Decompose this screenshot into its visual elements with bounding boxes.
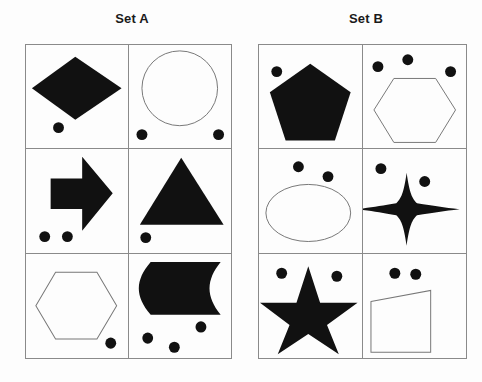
dot: [140, 232, 151, 243]
set-a-cell-middle-right: [129, 149, 232, 253]
bitten-rounded-rect-shape: [138, 262, 220, 315]
dot: [323, 171, 334, 182]
dot: [39, 231, 50, 242]
hexagon-shape: [36, 272, 117, 339]
five-pointed-star-shape: [260, 266, 358, 354]
circle-shape: [141, 51, 217, 126]
set-b-cell-top-right: [363, 45, 467, 149]
dot: [142, 332, 153, 343]
set-a-cell-bottom-right: [129, 254, 232, 358]
dot: [213, 129, 224, 140]
pentagon-shape: [270, 64, 351, 141]
set-a-title: Set A: [79, 11, 185, 26]
dot: [195, 321, 206, 332]
dot: [276, 267, 287, 278]
set-b-cell-top-left: [259, 45, 363, 149]
set-a-cell-bottom-left: [26, 254, 129, 358]
trapezoid-shape: [370, 290, 430, 352]
set-a-cell-middle-left: [26, 149, 129, 253]
ellipse-shape: [266, 185, 351, 242]
hexagon-shape: [373, 78, 455, 142]
set-b-title: Set B: [313, 11, 419, 26]
dot: [375, 164, 386, 175]
dot: [402, 54, 413, 65]
dot: [445, 66, 456, 77]
dot: [136, 129, 147, 140]
set-b-cell-bottom-right: [363, 254, 467, 358]
set-b-cell-middle-right: [363, 149, 467, 253]
set-a-grid: [25, 44, 232, 359]
dot: [410, 268, 421, 279]
dot: [271, 66, 282, 77]
set-b-grid: [258, 44, 467, 359]
dot: [62, 231, 73, 242]
diamond-shape: [32, 57, 122, 120]
dot: [331, 270, 342, 281]
dot: [53, 122, 64, 133]
dot: [372, 61, 383, 72]
dot: [293, 162, 304, 173]
set-b-cell-bottom-left: [259, 254, 363, 358]
triangle-shape: [139, 158, 223, 225]
puzzle-figure: Set A: [0, 0, 482, 382]
set-b-cell-middle-left: [259, 149, 363, 253]
dot: [419, 176, 430, 187]
set-a-cell-top-right: [129, 45, 232, 149]
four-pointed-star-shape: [363, 173, 460, 246]
dot: [168, 341, 179, 352]
set-a-cell-top-left: [26, 45, 129, 149]
dot: [389, 267, 400, 278]
dot: [105, 337, 116, 348]
arrow-right-shape: [51, 157, 113, 231]
